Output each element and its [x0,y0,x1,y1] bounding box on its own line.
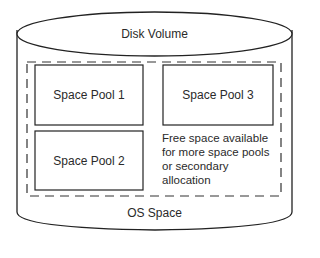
space-pool-1-label: Space Pool 1 [35,88,143,102]
free-space-note: Free space available for more space pool… [162,131,269,187]
disk-volume-label: Disk Volume [97,27,212,41]
os-space-label: OS Space [97,206,212,220]
space-pool-3-label: Space Pool 3 [163,88,273,102]
space-pool-2-label: Space Pool 2 [35,154,143,168]
